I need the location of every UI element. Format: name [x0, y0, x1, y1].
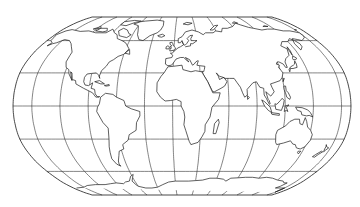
banks-devon-islands-outline — [93, 27, 101, 30]
world-map-svg — [0, 0, 360, 207]
borneo-outline — [275, 98, 284, 110]
new-siberian-islands-outline — [263, 26, 268, 27]
greenland-outline — [134, 20, 164, 40]
new-guinea-outline — [296, 107, 313, 117]
madagascar-outline — [213, 119, 219, 133]
south-america-outline — [97, 93, 140, 166]
java-outline — [271, 113, 279, 116]
new-zealand-south-outline — [312, 151, 322, 157]
new-zealand-north-outline — [324, 145, 329, 152]
baffin-island-outline — [119, 28, 132, 37]
sri-lanka-outline — [247, 96, 249, 100]
severnaya-zemlya-outline — [232, 22, 237, 24]
japan-outline — [289, 61, 297, 72]
hokkaido-outline — [293, 56, 297, 60]
cuba-outline — [95, 81, 105, 84]
great-britain-outline — [170, 42, 176, 51]
ireland-outline — [166, 46, 170, 49]
antarctica-outline — [77, 174, 288, 192]
hispaniola-outline — [104, 85, 109, 87]
iceland-outline — [158, 34, 165, 37]
tasmania-outline — [298, 151, 301, 154]
novaya-zemlya-outline — [210, 25, 218, 30]
taiwan-outline — [283, 78, 284, 81]
svalbard-outline — [183, 22, 192, 24]
north-america-outline — [47, 29, 129, 97]
world-map — [0, 0, 360, 207]
australia-outline — [276, 118, 313, 149]
